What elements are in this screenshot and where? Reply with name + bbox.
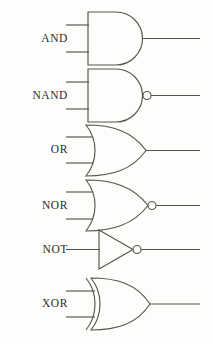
gate-nand: NAND (32, 69, 200, 122)
gate-label-or: OR (51, 143, 68, 155)
and-gate-body (88, 12, 143, 65)
gate-xor: XOR (42, 278, 200, 330)
xor-extra-arc (86, 278, 95, 330)
gate-and: AND (41, 12, 200, 65)
not-gate-body (99, 230, 133, 269)
nand-gate-body (88, 69, 143, 122)
gate-label-and: AND (41, 32, 68, 44)
gate-or: OR (51, 125, 200, 176)
nand-inverting-bubble-icon (143, 92, 151, 100)
gate-label-not: NOT (43, 243, 68, 255)
logic-gates-canvas: AND NAND OR NOR (0, 0, 213, 344)
or-gate-body (86, 125, 146, 176)
nor-inverting-bubble-icon (148, 202, 156, 210)
gate-nor: NOR (42, 180, 200, 231)
gate-label-nor: NOR (42, 199, 68, 211)
gate-label-nand: NAND (32, 89, 68, 101)
not-inverting-bubble-icon (133, 246, 141, 254)
gate-label-xor: XOR (42, 297, 68, 309)
xor-gate-body (91, 278, 150, 330)
nor-gate-body (86, 180, 148, 231)
gate-not: NOT (43, 230, 200, 269)
logic-gate-diagram: AND NAND OR NOR (0, 0, 213, 344)
